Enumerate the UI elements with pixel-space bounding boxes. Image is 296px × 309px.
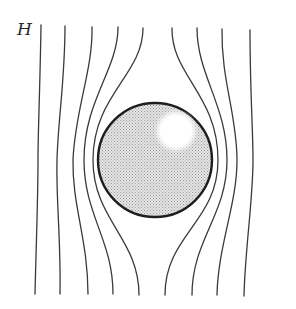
- field-diagram: [0, 0, 296, 309]
- field-line-9: [244, 30, 253, 296]
- sphere-highlight: [154, 109, 198, 153]
- field-line-2: [57, 26, 65, 294]
- field-label-h: H: [17, 21, 32, 38]
- field-line-3: [73, 27, 92, 294]
- field-line-1: [35, 25, 41, 294]
